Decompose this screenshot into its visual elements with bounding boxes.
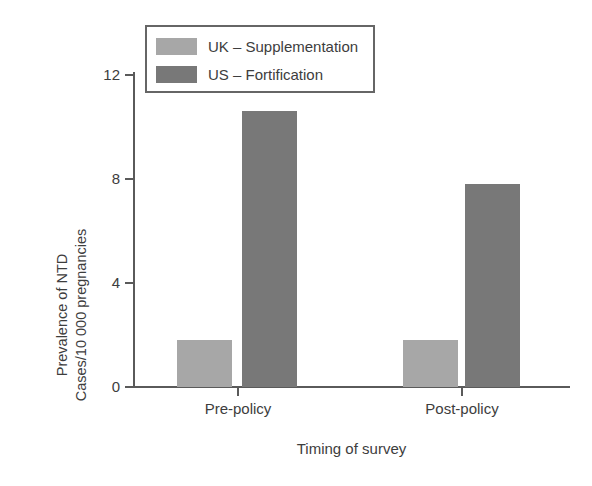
x-tick-label-post-policy: Post-policy: [382, 400, 542, 418]
legend-label-us-fortification: US – Fortification: [208, 66, 323, 83]
legend-item-uk-supplementation: UK – Supplementation: [156, 33, 365, 59]
x-tick-mark-post-policy: [461, 387, 463, 396]
x-axis-title: Timing of survey: [133, 440, 570, 458]
legend-label-uk-supplementation: UK – Supplementation: [208, 38, 358, 55]
bar-post-policy-us-fortification: [465, 184, 520, 387]
bar-pre-policy-us-fortification: [242, 111, 297, 387]
legend-swatch-us-fortification: [156, 66, 197, 83]
bar-post-policy-uk-supplementation: [403, 340, 458, 387]
y-axis-title-line2: Cases/10 000 pregnancies: [73, 229, 89, 402]
bar-pre-policy-uk-supplementation: [177, 340, 232, 387]
y-axis-title-line1: Prevalence of NTD: [54, 254, 70, 377]
x-tick-label-pre-policy: Pre-policy: [158, 400, 318, 418]
legend-item-us-fortification: US – Fortification: [156, 61, 365, 87]
y-axis-title-container: Prevalence of NTDCases/10 000 pregnancie…: [30, 100, 86, 390]
chart-legend: UK – Supplementation US – Fortification: [145, 25, 375, 93]
legend-swatch-uk-supplementation: [156, 38, 197, 55]
y-axis-title: Prevalence of NTDCases/10 000 pregnancie…: [53, 190, 91, 440]
x-tick-mark-pre-policy: [237, 387, 239, 396]
bar-chart-figure: 12 8 4 0 Pre-policy Post-policy Prevalen…: [0, 0, 592, 486]
